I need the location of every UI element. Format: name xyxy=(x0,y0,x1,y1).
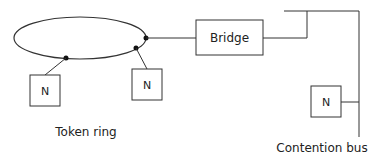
bridge-bus-link xyxy=(263,11,307,38)
bridge-box: Bridge xyxy=(196,20,263,55)
node-label: N xyxy=(322,96,330,109)
bridge-label: Bridge xyxy=(210,31,249,45)
node-link xyxy=(45,58,66,75)
bus-node: N xyxy=(311,86,341,117)
node-label: N xyxy=(143,79,151,92)
node-link xyxy=(136,48,147,69)
node-label: N xyxy=(41,85,49,98)
contention-bus-label: Contention bus xyxy=(276,141,367,155)
ring-node-2: N xyxy=(132,69,162,100)
ring-node-1: N xyxy=(30,75,60,106)
token-ring-ellipse xyxy=(14,17,146,59)
network-diagram: N N Bridge N Token ring Contention bus xyxy=(0,0,376,157)
token-ring-label: Token ring xyxy=(54,125,116,139)
